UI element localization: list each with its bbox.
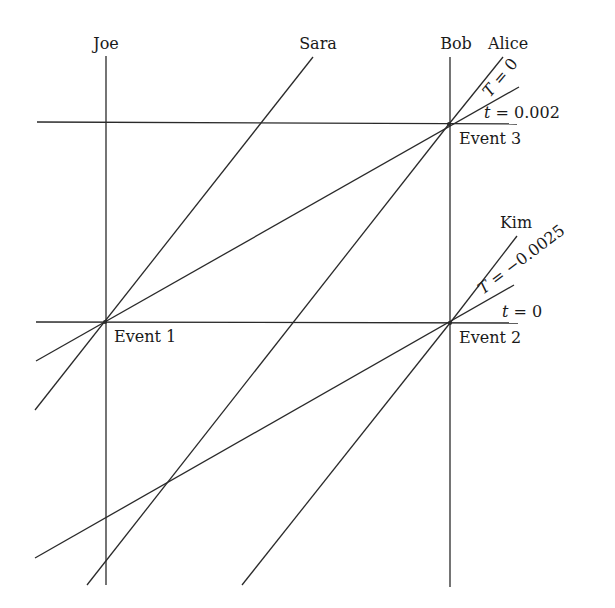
event-2-point [448,321,452,325]
event-label-1: Event 1 [114,327,176,346]
value-0.002: = 0.002 [490,103,559,122]
worldline-sara [35,57,313,410]
observer-label-alice: Alice [487,34,528,53]
t-0-line [36,322,518,323]
reference-lines [35,87,519,585]
annotation-t-0.002: t = 0.002 [484,103,560,122]
T-neg0.0025-line [35,285,514,558]
observer-label-kim: Kim [500,213,532,232]
annotation-T-0: T = 0 [479,54,522,100]
labels: Joe Sara Bob Alice Kim Event 1 Event 2 E… [91,34,568,347]
event-label-3: Event 3 [459,129,521,148]
observer-label-bob: Bob [440,34,472,53]
kim-past-line [242,323,450,585]
event-3-point [447,122,451,126]
annotation-t-0: t = 0 [502,302,542,321]
event-label-2: Event 2 [459,328,521,347]
observer-label-sara: Sara [299,34,337,53]
spacetime-diagram: Joe Sara Bob Alice Kim Event 1 Event 2 E… [0,0,615,608]
observer-label-joe: Joe [91,34,119,53]
alice-past-line [87,124,449,585]
value-0: = 0 [508,302,542,321]
t-0.002-line [37,122,517,124]
event-1-point [103,320,107,324]
annotation-T-neg-0.0025: T = −0.0025 [474,221,568,299]
